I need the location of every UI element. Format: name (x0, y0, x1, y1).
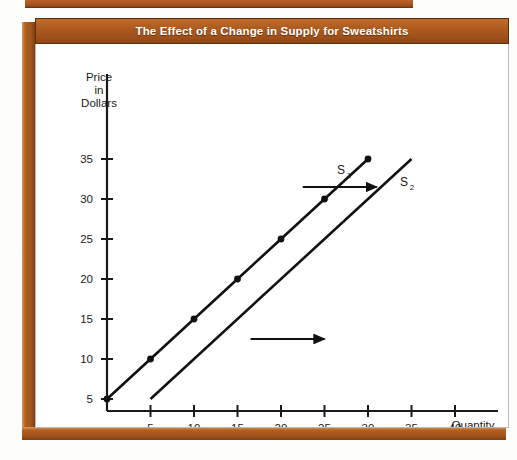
supply-shift-chart: Price in Dollars 5101520253035 510152025… (36, 44, 509, 428)
supply-curve-S2 (151, 159, 412, 399)
chart-plot-panel: Price in Dollars 5101520253035 510152025… (35, 44, 509, 428)
x-tick-label: 35 (405, 422, 418, 428)
data-point (278, 236, 285, 243)
y-tick-label: 15 (80, 313, 93, 325)
series-label-s1: S (337, 163, 345, 177)
page-title: The Effect of a Change in Supply for Swe… (135, 25, 408, 37)
figure-frame: The Effect of a Change in Supply for Swe… (22, 18, 509, 442)
y-tick-label: 25 (80, 233, 93, 245)
series-sublabel-s2: 2 (410, 183, 415, 192)
y-tick-label: 5 (87, 393, 93, 405)
y-tick-label: 10 (80, 353, 93, 365)
data-point (104, 396, 111, 403)
y-tick-label: 35 (80, 153, 93, 165)
x-tick-label: 25 (318, 422, 331, 428)
chart-title-bar: The Effect of a Change in Supply for Swe… (35, 18, 509, 44)
x-axis-title: Quantity (452, 419, 495, 428)
series-label-s2: S (400, 175, 408, 189)
frame-left-band (22, 22, 35, 440)
data-point (191, 316, 198, 323)
series-sublabel-s1: 1 (347, 171, 352, 180)
y-tick-label: 30 (80, 193, 93, 205)
data-point (321, 196, 328, 203)
x-axis-ticks: 510152025303540 (147, 405, 461, 428)
decorative-top-strip (25, 0, 413, 8)
data-point (147, 356, 154, 363)
data-point (234, 276, 241, 283)
x-tick-label: 15 (231, 422, 244, 428)
data-point (365, 156, 372, 163)
y-tick-label: 20 (80, 273, 93, 285)
y-axis-title-line-3: Dollars (81, 97, 117, 109)
y-axis-title-line-2: in (95, 84, 104, 96)
x-tick-label: 20 (275, 422, 288, 428)
x-tick-label: 30 (362, 422, 375, 428)
supply-curves (107, 159, 412, 399)
x-tick-label: 5 (147, 422, 153, 428)
y-axis-title-line-1: Price (86, 71, 112, 83)
frame-bottom-band (22, 427, 506, 440)
x-tick-label: 10 (188, 422, 201, 428)
